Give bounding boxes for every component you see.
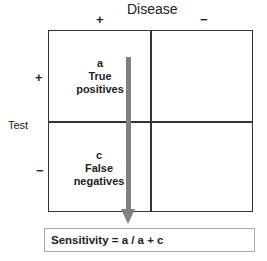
row-sign-negative: − xyxy=(36,163,44,178)
cell-a-line2: positives xyxy=(65,83,135,96)
row-divider xyxy=(48,121,253,123)
disease-axis-title: Disease xyxy=(127,1,267,17)
down-arrow-shaft xyxy=(126,57,131,210)
cell-a-line1: True xyxy=(65,70,135,83)
sensitivity-formula-box: Sensitivity = a / a + c xyxy=(44,228,255,252)
test-axis-label: Test xyxy=(8,119,28,131)
cell-c-line1: False xyxy=(64,162,134,175)
cell-c-letter: c xyxy=(64,149,134,162)
column-sign-negative: − xyxy=(200,12,208,27)
cell-a-letter: a xyxy=(65,57,135,70)
down-arrow-icon xyxy=(121,209,135,224)
cell-c-line2: negatives xyxy=(64,175,134,188)
cell-a-true-positives: a True positives xyxy=(65,57,135,96)
cell-c-false-negatives: c False negatives xyxy=(64,149,134,188)
row-sign-positive: + xyxy=(35,70,43,85)
column-sign-positive: + xyxy=(96,12,104,27)
